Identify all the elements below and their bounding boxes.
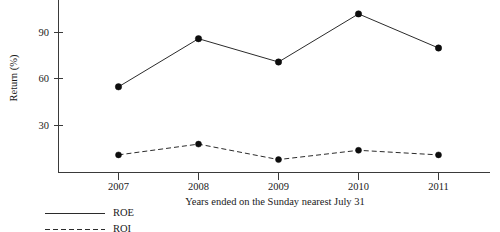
x-axis-title: Years ended on the Sunday nearest July 3…: [185, 196, 364, 207]
data-point-roe-2008: [195, 36, 201, 42]
legend-label-roi: ROI: [113, 223, 132, 232]
x-tick-label-2008: 2008: [188, 181, 209, 192]
data-point-roi-2007: [116, 152, 122, 158]
y-tick-label-30: 30: [39, 120, 50, 131]
legend-label-roe: ROE: [113, 207, 134, 218]
chart-container: 90 60 30 Return (%) 2007 2008 2009 2010 …: [0, 0, 500, 232]
data-point-roe-2010: [355, 11, 361, 17]
y-tick-label-90: 90: [39, 27, 50, 38]
y-axis-title: Return (%): [8, 54, 20, 101]
y-tick-group: 90 60 30: [39, 27, 64, 131]
data-point-roi-2010: [356, 147, 362, 153]
data-point-roe-2007: [115, 84, 121, 90]
x-tick-label-2007: 2007: [108, 181, 129, 192]
data-point-roi-2008: [196, 141, 202, 147]
y-tick-label-60: 60: [39, 73, 50, 84]
series-markers-roe: [115, 11, 441, 90]
data-point-roi-2011: [436, 152, 442, 158]
x-tick-label-2010: 2010: [348, 181, 369, 192]
data-point-roe-2009: [275, 59, 281, 65]
data-point-roe-2011: [435, 45, 441, 51]
x-tick-label-2011: 2011: [428, 181, 449, 192]
data-point-roi-2009: [276, 157, 282, 163]
legend: ROE ROI: [45, 207, 134, 232]
line-chart: 90 60 30 Return (%) 2007 2008 2009 2010 …: [0, 0, 500, 232]
series-line-roe: [119, 14, 439, 87]
x-tick-group: 2007 2008 2009 2010 2011: [108, 173, 449, 193]
x-tick-label-2009: 2009: [268, 181, 289, 192]
